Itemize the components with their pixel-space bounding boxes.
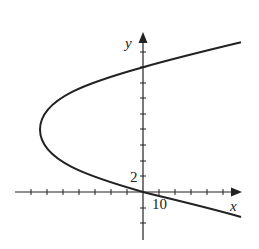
parabola-graph: y x 2 10: [0, 0, 259, 249]
parabola-curve: [40, 42, 241, 217]
x-axis-label: x: [229, 198, 237, 214]
x-tick-label-10: 10: [152, 196, 167, 212]
y-axis-arrow-icon: [139, 32, 148, 43]
y-tick-label-2: 2: [130, 169, 138, 185]
y-axis-label: y: [123, 35, 132, 51]
x-axis: [15, 188, 242, 197]
x-axis-arrow-icon: [231, 188, 242, 197]
y-axis: [139, 32, 148, 240]
